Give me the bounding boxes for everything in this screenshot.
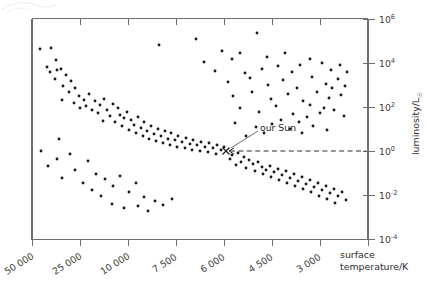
data-point bbox=[254, 170, 257, 173]
y-tick-mantissa-1: 10 bbox=[379, 58, 391, 69]
data-point bbox=[232, 95, 235, 98]
data-point bbox=[339, 64, 342, 67]
data-point bbox=[221, 50, 224, 53]
data-point bbox=[266, 56, 269, 59]
data-point bbox=[119, 114, 122, 117]
data-point bbox=[146, 130, 149, 133]
data-point bbox=[237, 152, 240, 155]
data-point bbox=[137, 116, 140, 119]
data-point bbox=[73, 102, 76, 105]
data-point bbox=[318, 195, 321, 198]
x-axis-title-line2: temperature/K bbox=[340, 261, 409, 272]
data-point bbox=[167, 138, 170, 141]
data-point bbox=[278, 179, 281, 182]
data-point bbox=[62, 85, 65, 88]
data-point bbox=[126, 111, 129, 114]
data-point bbox=[46, 66, 49, 69]
data-point bbox=[40, 150, 43, 153]
y-tick-exponent-0: 6 bbox=[391, 13, 395, 21]
data-point bbox=[275, 105, 278, 108]
data-point bbox=[140, 127, 143, 130]
data-point bbox=[174, 139, 177, 142]
data-point bbox=[270, 176, 273, 179]
svg-text:100: 100 bbox=[379, 145, 395, 157]
svg-text:10-2: 10-2 bbox=[379, 189, 397, 201]
data-point bbox=[277, 168, 280, 171]
svg-text:106: 106 bbox=[379, 13, 395, 25]
data-point bbox=[103, 98, 106, 101]
data-point bbox=[245, 167, 248, 170]
data-point bbox=[130, 119, 133, 122]
data-point bbox=[323, 107, 326, 110]
data-point bbox=[216, 144, 219, 147]
data-point bbox=[244, 72, 247, 75]
data-point bbox=[229, 158, 232, 161]
data-point bbox=[121, 125, 124, 128]
data-point bbox=[207, 151, 210, 154]
data-point bbox=[189, 143, 192, 146]
scatter-points bbox=[39, 32, 349, 213]
data-point bbox=[104, 178, 107, 181]
data-point bbox=[310, 191, 313, 194]
data-point bbox=[65, 74, 68, 77]
data-point bbox=[261, 68, 264, 71]
data-point bbox=[203, 61, 206, 64]
data-point bbox=[299, 64, 302, 67]
data-point bbox=[54, 78, 57, 81]
data-point bbox=[292, 113, 295, 116]
x-axis-tick-labels: 50 000 25 000 10 000 7 500 6 000 4 500 3… bbox=[2, 250, 322, 277]
data-point bbox=[289, 177, 292, 180]
data-point bbox=[287, 93, 290, 96]
data-point bbox=[162, 142, 165, 145]
data-point bbox=[309, 179, 312, 182]
data-point bbox=[155, 140, 158, 143]
annotation-our-sun: our Sun bbox=[260, 122, 296, 133]
data-point bbox=[258, 111, 261, 114]
axis-frame bbox=[32, 19, 368, 240]
x-tick-label-3: 7 500 bbox=[150, 251, 178, 274]
data-point bbox=[74, 87, 77, 90]
data-point bbox=[99, 104, 102, 107]
data-point bbox=[135, 182, 138, 185]
data-point bbox=[83, 99, 86, 102]
data-point bbox=[162, 204, 165, 207]
y-axis-title: luminosity/L☉ bbox=[410, 92, 424, 155]
data-point bbox=[326, 198, 329, 201]
data-point bbox=[88, 93, 91, 96]
data-point bbox=[298, 121, 301, 124]
data-point bbox=[112, 185, 115, 188]
svg-text:10-4: 10-4 bbox=[379, 233, 397, 245]
data-point bbox=[49, 71, 52, 74]
data-point bbox=[313, 186, 316, 189]
data-point bbox=[255, 126, 258, 129]
data-point bbox=[102, 120, 105, 123]
data-point bbox=[277, 65, 280, 68]
data-point bbox=[95, 173, 98, 176]
data-point bbox=[135, 132, 138, 135]
data-point bbox=[176, 146, 179, 149]
data-point bbox=[119, 175, 122, 178]
data-point bbox=[60, 68, 63, 71]
data-point bbox=[282, 79, 285, 82]
data-point bbox=[97, 112, 100, 115]
data-point bbox=[39, 48, 42, 51]
data-point bbox=[94, 100, 97, 103]
data-point bbox=[309, 58, 312, 61]
data-point bbox=[79, 107, 82, 110]
data-point bbox=[296, 87, 299, 90]
data-point bbox=[285, 170, 288, 173]
data-point bbox=[195, 38, 198, 41]
data-point bbox=[150, 125, 153, 128]
x-tick-label-6: 3 000 bbox=[294, 251, 322, 274]
data-point bbox=[343, 115, 346, 118]
data-point bbox=[325, 185, 328, 188]
data-point bbox=[100, 195, 103, 198]
data-point bbox=[301, 132, 304, 135]
data-point bbox=[85, 105, 88, 108]
data-point bbox=[192, 139, 195, 142]
data-point bbox=[321, 62, 324, 65]
x-tick-label-1: 25 000 bbox=[50, 250, 83, 277]
x-tick-label-2: 10 000 bbox=[98, 250, 131, 277]
data-point bbox=[311, 76, 314, 79]
data-point bbox=[56, 158, 59, 161]
